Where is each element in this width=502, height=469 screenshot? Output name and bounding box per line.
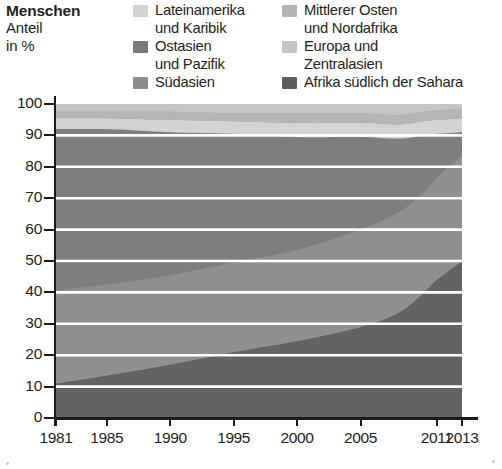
x-axis-label: 1990 bbox=[144, 429, 196, 447]
y-axis-label: 80 bbox=[4, 157, 42, 175]
y-axis-tick bbox=[44, 291, 55, 293]
x-axis-tick bbox=[169, 417, 171, 426]
stacked-area-svg bbox=[56, 104, 462, 418]
y-axis-label: 30 bbox=[4, 314, 42, 332]
x-axis-label: 1995 bbox=[208, 429, 260, 447]
legend-item-afrika[interactable]: Afrika südlich der Sahara bbox=[282, 74, 500, 92]
chart-header: Menschen Anteil in % Lateinamerika und K… bbox=[0, 0, 502, 96]
y-axis-tick bbox=[44, 386, 55, 388]
x-axis-tick bbox=[233, 417, 235, 426]
y-axis-label: 60 bbox=[4, 220, 42, 238]
y-axis-label: 100 bbox=[4, 94, 42, 112]
x-axis-label: 1985 bbox=[81, 429, 133, 447]
legend-label: Mittlerer Osten und Nordafrika bbox=[304, 2, 398, 37]
legend-swatch-icon bbox=[133, 41, 148, 53]
y-axis-tick bbox=[44, 260, 55, 262]
plot-area bbox=[56, 104, 462, 418]
legend-item-lateinamerika[interactable]: Lateinamerika und Karibik bbox=[133, 2, 283, 37]
legend-swatch-icon bbox=[282, 41, 297, 53]
legend-label: Südasien bbox=[155, 74, 215, 92]
chart-area: 0102030405060708090100 19811985199019952… bbox=[0, 96, 502, 469]
y-axis-tick bbox=[44, 197, 55, 199]
legend-item-ostasien[interactable]: Ostasien und Pazifik bbox=[133, 38, 283, 73]
x-axis-tick bbox=[436, 417, 438, 426]
x-axis-tick bbox=[296, 417, 298, 426]
y-axis-label: 70 bbox=[4, 188, 42, 206]
legend-swatch-icon bbox=[133, 5, 148, 17]
legend-swatch-icon bbox=[282, 77, 297, 89]
page-artifact-dot bbox=[6, 462, 9, 465]
texture-overlay bbox=[56, 104, 462, 418]
x-axis-label: 1981 bbox=[30, 429, 82, 447]
y-axis-label: 40 bbox=[4, 282, 42, 300]
legend-label: Ostasien und Pazifik bbox=[155, 38, 225, 73]
y-axis-label: 0 bbox=[4, 408, 42, 426]
x-axis-tick bbox=[106, 417, 108, 426]
x-axis-tick bbox=[461, 417, 463, 426]
page-title: Menschen bbox=[6, 2, 126, 19]
legend-swatch-icon bbox=[282, 5, 297, 17]
x-axis-label: 2000 bbox=[271, 429, 323, 447]
y-axis-label: 10 bbox=[4, 377, 42, 395]
y-axis-tick bbox=[44, 354, 55, 356]
y-axis-tick bbox=[44, 103, 55, 105]
legend-label: Europa und Zentralasien bbox=[304, 38, 382, 73]
y-axis-label: 20 bbox=[4, 345, 42, 363]
subtitle-line-2: in % bbox=[6, 37, 126, 55]
x-axis-tick bbox=[360, 417, 362, 426]
legend-item-suedasien[interactable]: Südasien bbox=[133, 74, 283, 92]
x-axis-tick bbox=[55, 417, 57, 426]
legend-item-europa[interactable]: Europa und Zentralasien bbox=[282, 38, 500, 73]
chart-figure: Menschen Anteil in % Lateinamerika und K… bbox=[0, 0, 502, 469]
legend-label: Lateinamerika und Karibik bbox=[155, 2, 245, 37]
y-axis-label: 90 bbox=[4, 125, 42, 143]
y-axis-tick bbox=[44, 417, 55, 419]
x-axis-line bbox=[54, 417, 478, 420]
legend-swatch-icon bbox=[133, 77, 148, 89]
y-axis-tick bbox=[44, 166, 55, 168]
legend-column-left: Lateinamerika und Karibik Ostasien und P… bbox=[133, 2, 283, 93]
page-artifact-dot bbox=[492, 460, 495, 463]
subtitle-line-1: Anteil bbox=[6, 19, 126, 37]
legend-label: Afrika südlich der Sahara bbox=[304, 74, 463, 92]
legend-column-right: Mittlerer Osten und Nordafrika Europa un… bbox=[282, 2, 500, 93]
y-axis-label: 50 bbox=[4, 251, 42, 269]
x-axis-label: 2013 bbox=[436, 429, 488, 447]
title-block: Menschen Anteil in % bbox=[6, 2, 126, 54]
y-axis-tick bbox=[44, 134, 55, 136]
legend-item-mittlerer-osten[interactable]: Mittlerer Osten und Nordafrika bbox=[282, 2, 500, 37]
y-axis-tick bbox=[44, 323, 55, 325]
x-axis-label: 2005 bbox=[335, 429, 387, 447]
y-axis-tick bbox=[44, 229, 55, 231]
